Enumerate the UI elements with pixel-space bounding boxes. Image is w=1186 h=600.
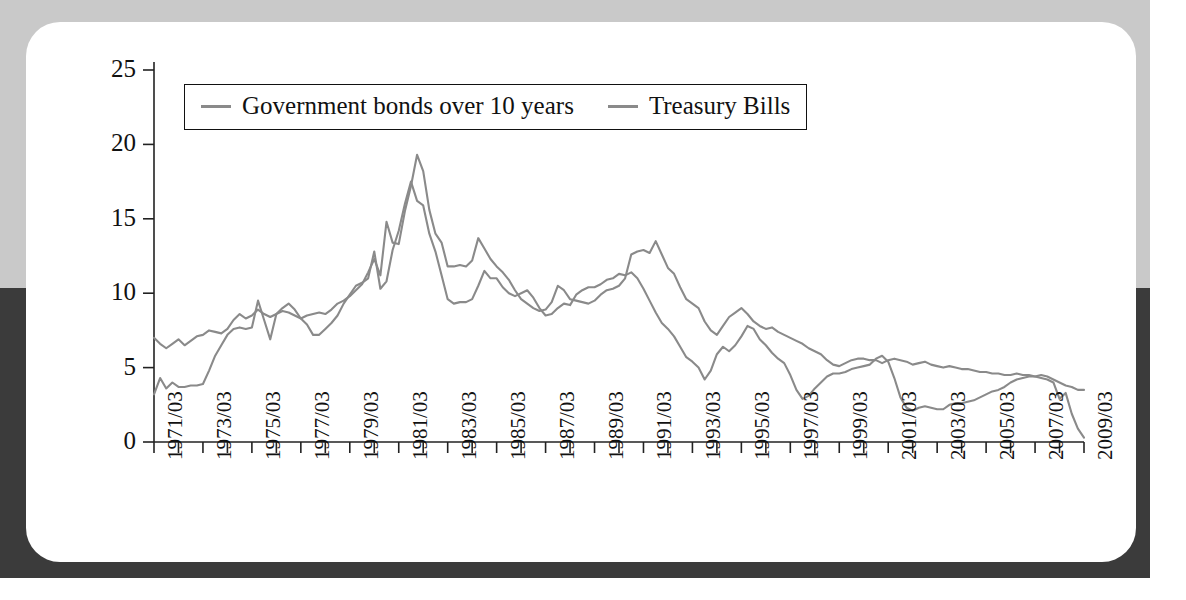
x-tick-label: 1977/03 — [310, 391, 335, 460]
x-tick-label: 1983/03 — [457, 391, 482, 460]
x-tick-label: 1971/03 — [163, 391, 188, 460]
legend-label-bonds: Government bonds over 10 years — [242, 92, 574, 120]
x-tick-label: 1993/03 — [701, 391, 726, 460]
x-tick-label: 2003/03 — [946, 391, 971, 460]
x-tick-label: 2009/03 — [1093, 391, 1118, 460]
x-tick-label: 1973/03 — [212, 391, 237, 460]
page-background-right-margin — [1150, 0, 1186, 600]
chart-card: 0510152025 1971/031973/031975/031977/031… — [26, 22, 1136, 562]
legend-label-tbills: Treasury Bills — [649, 92, 790, 120]
x-tick-label: 2007/03 — [1044, 391, 1069, 460]
legend-line-swatch-tbills — [608, 105, 638, 108]
x-tick-label: 2001/03 — [897, 391, 922, 460]
y-tick-label: 20 — [90, 130, 136, 155]
x-tick-label: 1987/03 — [555, 391, 580, 460]
x-tick-label: 1979/03 — [359, 391, 384, 460]
legend-item-government-bonds: Government bonds over 10 years — [201, 92, 574, 120]
page-background-bottom-margin — [0, 578, 1186, 600]
screenshot-root: 0510152025 1971/031973/031975/031977/031… — [0, 0, 1186, 600]
y-tick-label: 15 — [90, 205, 136, 230]
x-tick-label: 1975/03 — [261, 391, 286, 460]
legend-item-treasury-bills: Treasury Bills — [608, 92, 790, 120]
x-tick-label: 1985/03 — [506, 391, 531, 460]
x-tick-label: 1997/03 — [799, 391, 824, 460]
x-tick-label: 1999/03 — [848, 391, 873, 460]
y-tick-label: 5 — [90, 354, 136, 379]
x-tick-label: 1995/03 — [750, 391, 775, 460]
y-tick-label: 25 — [90, 56, 136, 81]
y-tick-label: 0 — [90, 428, 136, 453]
x-tick-label: 1989/03 — [604, 391, 629, 460]
y-tick-label: 10 — [90, 279, 136, 304]
chart-legend: Government bonds over 10 years Treasury … — [184, 84, 807, 130]
legend-line-swatch-bonds — [201, 105, 231, 108]
x-tick-label: 1991/03 — [652, 391, 677, 460]
series-line-0 — [154, 155, 1084, 390]
x-tick-label: 1981/03 — [408, 391, 433, 460]
x-tick-label: 2005/03 — [995, 391, 1020, 460]
